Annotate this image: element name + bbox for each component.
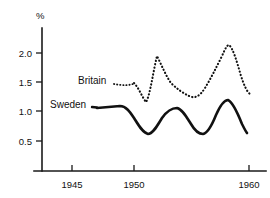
y-tick-label-1.5: 1.5 bbox=[19, 77, 32, 88]
x-tick-label-1945: 1945 bbox=[61, 179, 82, 190]
series-label-sweden: Sweden bbox=[50, 99, 86, 110]
y-tick-label-1.0: 1.0 bbox=[19, 106, 32, 117]
series-line-britain bbox=[134, 45, 250, 102]
y-axis-unit-label: % bbox=[36, 10, 45, 21]
chart-container: 2.0 1.5 1.0 0.5 % 1945 1950 1960 Britain… bbox=[0, 0, 270, 198]
x-tick-label-1960: 1960 bbox=[238, 179, 259, 190]
leader-line-sweden bbox=[92, 107, 97, 108]
x-tick-label-1950: 1950 bbox=[123, 179, 144, 190]
series-line-sweden bbox=[97, 100, 247, 134]
y-tick-label-2.0: 2.0 bbox=[19, 48, 32, 59]
y-tick-label-0.5: 0.5 bbox=[19, 136, 32, 147]
leader-line-britain bbox=[114, 84, 133, 85]
line-chart: 2.0 1.5 1.0 0.5 % 1945 1950 1960 Britain… bbox=[0, 0, 270, 198]
series-label-britain: Britain bbox=[78, 75, 106, 86]
